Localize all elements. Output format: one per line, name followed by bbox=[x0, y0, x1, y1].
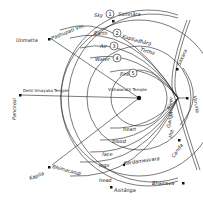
unmatta-marker bbox=[48, 38, 51, 41]
bhairava-marker bbox=[182, 182, 185, 185]
element-earth-label: Earth bbox=[94, 30, 107, 36]
varuna-label: Varuna bbox=[192, 95, 201, 113]
face-label: face bbox=[102, 151, 113, 157]
element-water-label: Water bbox=[95, 56, 111, 62]
dehli-vinayaka-marker bbox=[19, 94, 22, 97]
vishwanath-label: Vishwanath Temple bbox=[108, 87, 147, 92]
element-fire-label: Fire bbox=[120, 71, 129, 77]
canda-marker bbox=[178, 139, 181, 142]
kapila-label: Kapila bbox=[28, 170, 45, 182]
somnara-marker bbox=[112, 20, 115, 23]
canda-label: Canda bbox=[170, 142, 184, 159]
varanasi-sacred-geometry-diagram: 1 2 3 4 5 Sky Earth Air Water Fire Somnā… bbox=[0, 0, 203, 201]
element-3-num: 3 bbox=[112, 43, 115, 49]
head-label: head bbox=[99, 177, 112, 183]
legs-label: legs bbox=[99, 162, 110, 169]
unmatta-label: Unmatta bbox=[16, 37, 38, 43]
element-5-num: 5 bbox=[131, 70, 134, 76]
dehli-vinayaka-label: Dehli Vinayaka Temple bbox=[23, 88, 69, 93]
sakara-label: Sakara bbox=[175, 48, 188, 66]
tirtha-label: Tirtha bbox=[140, 46, 156, 56]
astodaya-label: Asitāṅga bbox=[113, 187, 136, 194]
axis-west bbox=[20, 95, 139, 98]
pashupati-label: Pashupati Vin. bbox=[50, 22, 86, 42]
blood-label: blood bbox=[112, 138, 127, 144]
kardamesvara-label: Kardameśvara bbox=[123, 155, 160, 166]
element-1-num: 1 bbox=[108, 11, 111, 17]
ganga-label: Gaṅgā bbox=[165, 111, 175, 128]
bhimachandi-label: Bhimacandi bbox=[52, 163, 83, 177]
somnara-label: Somnāra bbox=[118, 11, 140, 17]
element-air-label: Air bbox=[99, 43, 108, 49]
kapila-marker bbox=[48, 166, 51, 169]
vishwanath-marker bbox=[137, 96, 141, 100]
sakara-marker bbox=[176, 68, 179, 71]
element-sky-label: Sky bbox=[94, 12, 104, 19]
astodaya-marker bbox=[110, 186, 113, 189]
element-4-num: 4 bbox=[115, 55, 118, 61]
heart-label: heart bbox=[123, 126, 137, 132]
bhairava-label: Bhairava bbox=[152, 180, 174, 186]
varuna-marker bbox=[186, 97, 189, 100]
panchkosi-label: Panckosi bbox=[11, 97, 17, 120]
element-2-num: 2 bbox=[115, 30, 118, 36]
